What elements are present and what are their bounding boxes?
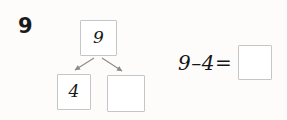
bond-box-part-left[interactable]: 4 bbox=[57, 74, 91, 110]
bond-box-part-right[interactable] bbox=[107, 75, 145, 112]
equation-answer-box[interactable] bbox=[238, 45, 272, 80]
equation-expression: 9–4= bbox=[178, 51, 232, 75]
bond-arrow-right bbox=[102, 58, 122, 71]
number-bond-diagram: 9 4 bbox=[50, 14, 154, 116]
exercise-number: 9 bbox=[18, 12, 40, 40]
bond-box-whole[interactable]: 9 bbox=[80, 20, 117, 56]
bond-part-left-value: 4 bbox=[69, 83, 80, 100]
worksheet-exercise: 9 9 4 9–4= bbox=[0, 0, 287, 120]
bond-arrow-left bbox=[75, 58, 94, 70]
bond-whole-value: 9 bbox=[93, 29, 104, 46]
